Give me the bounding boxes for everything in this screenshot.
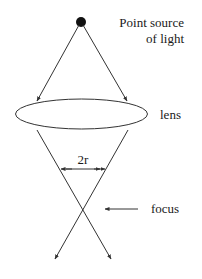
label-point-source-line2: of light: [146, 31, 184, 46]
lens-focus-diagram: Point source of light lens 2r focus: [0, 0, 202, 279]
ray-right-outgoing: [55, 130, 128, 259]
ray-left-outgoing: [37, 130, 111, 259]
ray-left-incoming: [37, 25, 79, 101]
label-aperture-2r: 2r: [78, 152, 90, 167]
label-lens: lens: [160, 107, 181, 122]
label-focus: focus: [151, 201, 179, 216]
ray-right-incoming: [83, 25, 127, 101]
lens-ellipse: [16, 99, 148, 129]
point-source-dot: [76, 17, 86, 27]
label-point-source-line1: Point source: [119, 15, 184, 30]
